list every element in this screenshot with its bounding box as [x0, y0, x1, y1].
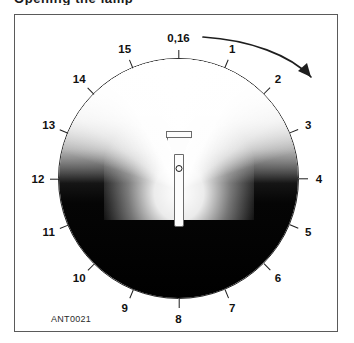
flashlight-lens	[166, 131, 192, 138]
dial-label-11: 11	[43, 226, 55, 238]
flashlight-reflector	[167, 138, 191, 155]
flashlight-switch-icon[interactable]	[175, 165, 182, 172]
dial-label-6: 6	[275, 272, 281, 284]
dial-tick-0-16	[178, 50, 179, 59]
figure-id-label: ANT0021	[51, 314, 91, 324]
dial-label-5: 5	[305, 226, 311, 238]
dial-label-2: 2	[275, 73, 281, 85]
dial-tick-8	[178, 299, 179, 308]
figure-stage: Opening the lamp ANT0021 0,1612345678910…	[0, 0, 354, 343]
dial-label-4: 4	[316, 173, 322, 185]
dial-label-14: 14	[73, 73, 86, 85]
dial-label-3: 3	[305, 119, 311, 131]
dial-assembly: 0,16123456789101112131415	[58, 58, 299, 299]
dial-tick-4	[299, 178, 308, 179]
dial-label-9: 9	[122, 302, 128, 314]
dial-label-8: 8	[175, 313, 181, 325]
flashlight	[166, 131, 192, 227]
dial-label-0-16: 0,16	[167, 32, 189, 44]
dial-label-13: 13	[42, 119, 55, 131]
dial-label-12: 12	[32, 173, 45, 185]
dial-label-7: 7	[229, 302, 235, 314]
dial-label-10: 10	[73, 272, 86, 284]
dial-label-1: 1	[229, 43, 235, 55]
dial-tick-12	[50, 178, 59, 179]
figure-frame: ANT0021 0,16123456789101112131415	[14, 14, 338, 332]
clipped-header-text: Opening the lamp	[14, 0, 254, 5]
dial-label-15: 15	[118, 43, 131, 55]
